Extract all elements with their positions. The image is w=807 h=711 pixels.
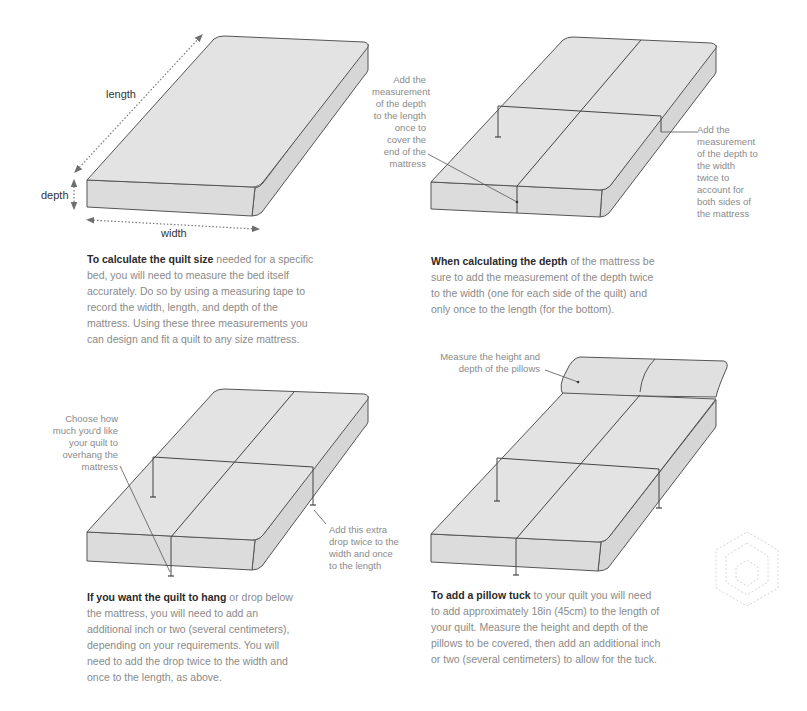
caption-heading: If you want the quilt to hang (87, 591, 226, 603)
pillow-tuck-diagram (431, 357, 727, 575)
caption-heading: To add a pillow tuck (431, 589, 531, 601)
length-label: length (106, 88, 136, 100)
note-extra-drop: Add this extra drop twice to the width a… (329, 524, 401, 572)
note-depth-width: Add the measurement of the depth to the … (697, 124, 759, 220)
width-label: width (161, 227, 187, 239)
overhang-diagram (87, 389, 368, 576)
caption-pillow-tuck: To add a pillow tuck to your quilt you w… (431, 587, 661, 667)
dashed-hexagon-icon (716, 532, 778, 606)
mattress-dimensions-diagram (74, 36, 368, 229)
caption-quilt-size: To calculate the quilt size needed for a… (87, 251, 322, 347)
note-pillows: Measure the height and depth of the pill… (440, 351, 540, 375)
depth-measure-diagram (428, 37, 716, 217)
note-depth-length: Add the measurement of the depth to the … (372, 74, 426, 170)
caption-heading: To calculate the quilt size (87, 253, 213, 265)
note-overhang: Choose how much you'd like your quilt to… (52, 413, 118, 473)
depth-label: depth (41, 189, 69, 201)
caption-heading: When calculating the depth (431, 255, 568, 267)
caption-body: or drop below the mattress, you will nee… (87, 591, 293, 683)
caption-depth: When calculating the depth of the mattre… (431, 253, 656, 317)
caption-body: needed for a specific bed, you will need… (87, 253, 313, 345)
caption-overhang: If you want the quilt to hang or drop be… (87, 589, 302, 685)
